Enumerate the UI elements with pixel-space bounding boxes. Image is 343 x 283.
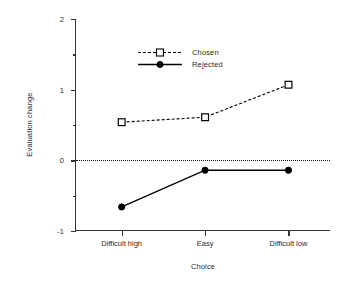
- y-tick-label--1: -1: [57, 227, 64, 236]
- data-point-0: [118, 119, 125, 126]
- x-tick-1: [205, 231, 206, 236]
- legend-key-rejected: [138, 59, 182, 70]
- y-tick-label-1: 1: [60, 85, 64, 94]
- legend-entry-rejected: Rejected: [138, 58, 223, 70]
- y-tick--1: -1: [71, 231, 76, 232]
- y-tick-label-0: 0: [60, 156, 64, 165]
- data-point-2: [285, 81, 292, 88]
- x-tick-2: [288, 231, 289, 236]
- data-point-1: [202, 114, 209, 121]
- y-axis-title: Evaluation change: [25, 55, 34, 195]
- legend-label-chosen: Chosen: [192, 48, 219, 57]
- x-axis-title: Choice: [76, 262, 330, 271]
- data-point-1: [202, 167, 208, 173]
- legend-label-rejected: Rejected: [192, 60, 223, 69]
- x-tick-label-1: Easy: [197, 239, 214, 248]
- series-rejected: [119, 167, 292, 210]
- series-line: [122, 170, 289, 207]
- series-chosen: [118, 81, 292, 125]
- plot-area: -1012 Difficult highEasyDifficult low Ch…: [76, 19, 330, 231]
- x-tick-0: [122, 231, 123, 236]
- y-tick-label-2: 2: [60, 15, 64, 24]
- data-point-2: [285, 167, 291, 173]
- legend-entry-chosen: Chosen: [138, 46, 223, 58]
- legend-key-chosen: [138, 47, 182, 58]
- x-tick-label-0: Difficult high: [101, 239, 142, 248]
- data-point-0: [119, 204, 125, 210]
- chart-legend: Chosen Rejected: [138, 46, 223, 70]
- evaluation-change-line-chart: Evaluation change Choice -1012 Difficult…: [0, 0, 343, 283]
- x-tick-label-2: Difficult low: [270, 239, 308, 248]
